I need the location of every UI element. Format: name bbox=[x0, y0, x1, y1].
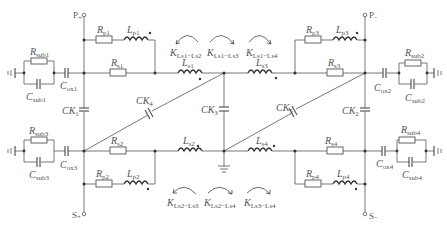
inductor-ls1 bbox=[178, 70, 202, 73]
svg-text:KLs1−Ls4: KLs1−Ls4 bbox=[245, 47, 278, 60]
svg-text:Cox2: Cox2 bbox=[374, 82, 392, 95]
svg-text:Rs4: Rs4 bbox=[324, 135, 338, 148]
svg-text:Rsub4: Rsub4 bbox=[400, 124, 421, 137]
svg-text:CK1: CK1 bbox=[62, 105, 79, 118]
svg-text:Rsub2: Rsub2 bbox=[404, 47, 425, 60]
svg-text:Rp3: Rp3 bbox=[305, 24, 320, 37]
svg-text:Rp1: Rp1 bbox=[96, 24, 111, 37]
inductor-ls3 bbox=[248, 70, 272, 73]
svg-text:Lp3: Lp3 bbox=[335, 24, 349, 37]
svg-text:Lp1: Lp1 bbox=[126, 24, 140, 37]
substrate-network-right bbox=[365, 63, 441, 167]
svg-text:KLs1−Ls3: KLs1−Ls3 bbox=[206, 47, 239, 60]
wires bbox=[84, 17, 365, 212]
labels: P+ P− S+ S− Rp1 Lp1 Rp3 Lp3 Rs1 Ls1 Ls3 … bbox=[26, 10, 425, 222]
terminal-p-minus bbox=[363, 13, 367, 17]
svg-text:Csub4: Csub4 bbox=[402, 169, 422, 182]
inductors bbox=[124, 32, 358, 190]
svg-text:Csub1: Csub1 bbox=[26, 91, 46, 104]
inductor-lp2 bbox=[124, 181, 148, 184]
resistor-rs2 bbox=[110, 147, 126, 154]
resistor-rsub4 bbox=[399, 137, 415, 143]
svg-text:Csub2: Csub2 bbox=[405, 92, 425, 105]
svg-text:Lp2: Lp2 bbox=[126, 168, 140, 181]
svg-text:KLs1−Ls2: KLs1−Ls2 bbox=[169, 47, 202, 60]
svg-text:CK3: CK3 bbox=[201, 104, 218, 117]
inductor-lp3 bbox=[333, 37, 357, 40]
svg-text:P−: P− bbox=[369, 10, 378, 22]
svg-text:Csub3: Csub3 bbox=[29, 169, 49, 182]
inductor-ls4 bbox=[248, 148, 272, 151]
svg-text:Rs3: Rs3 bbox=[327, 57, 341, 70]
svg-text:S+: S+ bbox=[72, 210, 81, 221]
svg-text:Rs2: Rs2 bbox=[110, 135, 124, 148]
svg-text:Rp2: Rp2 bbox=[95, 168, 110, 181]
svg-text:Rs1: Rs1 bbox=[110, 57, 124, 70]
resistor-rp2 bbox=[96, 180, 112, 187]
svg-text:Rsub1: Rsub1 bbox=[29, 46, 50, 59]
resistor-rp3 bbox=[305, 36, 321, 43]
terminal-s-minus bbox=[363, 212, 367, 216]
resistor-rp4 bbox=[305, 180, 321, 187]
terminal-s-plus bbox=[82, 212, 86, 216]
inductor-lp4 bbox=[333, 181, 357, 184]
svg-text:Rsub3: Rsub3 bbox=[28, 125, 49, 138]
svg-text:Lp4: Lp4 bbox=[336, 168, 350, 181]
svg-text:Ls4: Ls4 bbox=[255, 135, 268, 148]
svg-text:KLs3−Ls4: KLs3−Ls4 bbox=[243, 197, 276, 210]
svg-text:Cox1: Cox1 bbox=[60, 80, 78, 93]
svg-text:Ls2: Ls2 bbox=[182, 135, 195, 148]
svg-text:CK4: CK4 bbox=[136, 95, 153, 108]
resistor-rs1 bbox=[110, 69, 126, 76]
svg-text:Rp4: Rp4 bbox=[305, 168, 320, 181]
svg-text:Cox4: Cox4 bbox=[376, 158, 394, 171]
resistor-rs3 bbox=[327, 69, 343, 76]
terminals bbox=[82, 13, 367, 216]
svg-text:KLs2−Ls4: KLs2−Ls4 bbox=[203, 197, 236, 210]
svg-text:KLs2−Ls3: KLs2−Ls3 bbox=[166, 197, 199, 210]
svg-text:S−: S− bbox=[369, 211, 378, 222]
junctions bbox=[83, 39, 367, 186]
svg-text:CK5: CK5 bbox=[276, 102, 293, 115]
resistor-rs4 bbox=[327, 147, 343, 154]
inductor-ls2 bbox=[178, 148, 202, 151]
svg-text:Cox3: Cox3 bbox=[60, 159, 78, 172]
resistor-rp1 bbox=[96, 36, 112, 43]
svg-text:CK2: CK2 bbox=[342, 105, 359, 118]
inductor-lp1 bbox=[124, 37, 148, 40]
svg-text:P+: P+ bbox=[73, 10, 82, 22]
circuit-diagram: P+ P− S+ S− Rp1 Lp1 Rp3 Lp3 Rs1 Ls1 Ls3 … bbox=[0, 0, 447, 228]
terminal-p-plus bbox=[82, 13, 86, 17]
resistor-rsub2 bbox=[405, 60, 421, 66]
